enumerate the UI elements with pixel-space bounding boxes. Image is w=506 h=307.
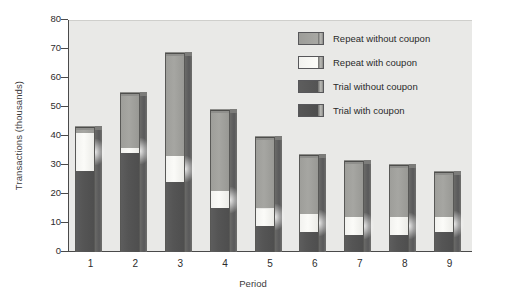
- legend-swatch: [298, 32, 324, 45]
- legend-label: Trial with coupon: [333, 105, 404, 116]
- y-tick-label: 20: [39, 187, 61, 198]
- bar-segment[interactable]: [210, 208, 230, 252]
- legend-label: Repeat without coupon: [333, 33, 430, 44]
- bar-3d-top-face: [255, 136, 275, 140]
- y-tick: 0: [30, 251, 61, 252]
- legend-item[interactable]: Trial without coupon: [298, 74, 430, 98]
- y-axis-title: Transactions (thousands): [10, 20, 28, 250]
- plot-top-border: [68, 20, 472, 21]
- bar-group[interactable]: [434, 171, 461, 252]
- bar-3d-side-face: [319, 158, 326, 252]
- bar-segment[interactable]: [75, 133, 95, 171]
- bar-3d-side-face: [409, 168, 416, 252]
- bar-group[interactable]: [389, 164, 416, 252]
- y-tick: 60: [30, 77, 61, 78]
- y-tick: 20: [30, 193, 61, 194]
- legend-swatch: [298, 80, 324, 93]
- y-tick-mark: [61, 222, 68, 223]
- legend-swatch-side: [318, 57, 323, 68]
- y-tick: 70: [30, 48, 61, 49]
- bar-segment[interactable]: [344, 235, 364, 252]
- y-tick: 10: [30, 222, 61, 223]
- bar-3d-side-face: [230, 113, 237, 252]
- y-tick: 40: [30, 135, 61, 136]
- y-tick-label: 80: [39, 13, 61, 24]
- legend-swatch-face: [299, 57, 318, 68]
- bar-segment[interactable]: [255, 137, 275, 208]
- bar-group[interactable]: [210, 109, 237, 252]
- bar-segment[interactable]: [165, 156, 185, 182]
- bar-segment[interactable]: [120, 93, 140, 148]
- y-tick-mark: [61, 193, 68, 194]
- bar-segment[interactable]: [165, 53, 185, 156]
- x-tick-label: 5: [250, 258, 290, 269]
- y-tick-label: 70: [39, 42, 61, 53]
- y-tick-mark: [61, 106, 68, 107]
- bar-3d-side-face: [275, 140, 282, 252]
- bar-3d-side-face: [364, 164, 371, 252]
- bar-segment[interactable]: [434, 232, 454, 252]
- legend-item[interactable]: Repeat without coupon: [298, 26, 430, 50]
- legend-swatch-side: [318, 105, 323, 116]
- bar-segment[interactable]: [120, 153, 140, 252]
- legend-label: Repeat with coupon: [333, 57, 417, 68]
- bar-segment[interactable]: [434, 172, 454, 217]
- bar-3d-top-face: [434, 171, 454, 175]
- bar-3d-side-face: [454, 175, 461, 252]
- legend-item[interactable]: Repeat with coupon: [298, 50, 430, 74]
- bar-3d-top-side-face: [275, 136, 282, 140]
- bar-segment[interactable]: [344, 217, 364, 234]
- y-tick-mark: [61, 77, 68, 78]
- bar-segment[interactable]: [389, 165, 409, 217]
- bar-3d-top-face: [344, 160, 364, 164]
- bar-group[interactable]: [299, 154, 326, 252]
- x-tick-label: 1: [70, 258, 110, 269]
- x-tick-label: 4: [205, 258, 245, 269]
- y-tick: 80: [30, 19, 61, 20]
- chart-figure: Transactions (thousands) 807060504030201…: [0, 0, 506, 307]
- legend-item[interactable]: Trial with coupon: [298, 98, 430, 122]
- bar-segment[interactable]: [299, 214, 319, 231]
- bar-segment[interactable]: [210, 110, 230, 191]
- legend-swatch-face: [299, 33, 318, 44]
- x-axis-title: Period: [0, 278, 506, 289]
- x-tick-label: 3: [160, 258, 200, 269]
- bar-3d-top-side-face: [95, 126, 102, 130]
- x-tick-label: 7: [340, 258, 380, 269]
- y-tick-mark: [61, 164, 68, 165]
- bar-3d-top-side-face: [140, 92, 147, 96]
- bar-segment[interactable]: [255, 226, 275, 252]
- y-tick-mark: [61, 19, 68, 20]
- bar-segment[interactable]: [389, 235, 409, 252]
- bar-group[interactable]: [255, 136, 282, 252]
- bar-3d-top-face: [75, 126, 95, 130]
- bar-3d-side-face: [140, 96, 147, 253]
- bar-3d-top-face: [389, 164, 409, 168]
- bar-group[interactable]: [165, 52, 192, 252]
- bar-segment[interactable]: [299, 155, 319, 214]
- bar-3d-top-side-face: [230, 109, 237, 113]
- bar-segment[interactable]: [255, 209, 275, 226]
- bar-segment[interactable]: [389, 217, 409, 234]
- bar-segment[interactable]: [75, 171, 95, 252]
- y-tick-label: 60: [39, 71, 61, 82]
- bar-3d-top-side-face: [409, 164, 416, 168]
- bar-group[interactable]: [344, 160, 371, 252]
- bar-segment[interactable]: [344, 161, 364, 218]
- x-tick-label: 8: [385, 258, 425, 269]
- bar-segment[interactable]: [120, 148, 140, 154]
- bar-segment[interactable]: [165, 182, 185, 252]
- y-tick-label: 40: [39, 129, 61, 140]
- bar-segment[interactable]: [210, 191, 230, 208]
- bar-segment[interactable]: [299, 232, 319, 252]
- bar-group[interactable]: [75, 126, 102, 252]
- bar-segment[interactable]: [434, 217, 454, 232]
- y-tick: 30: [30, 164, 61, 165]
- legend-label: Trial without coupon: [333, 81, 418, 92]
- bar-group[interactable]: [120, 92, 147, 253]
- y-tick-label: 0: [39, 245, 61, 256]
- bar-3d-top-face: [165, 52, 185, 56]
- legend-swatch: [298, 56, 324, 69]
- legend-swatch-face: [299, 105, 318, 116]
- x-tick-label: 2: [115, 258, 155, 269]
